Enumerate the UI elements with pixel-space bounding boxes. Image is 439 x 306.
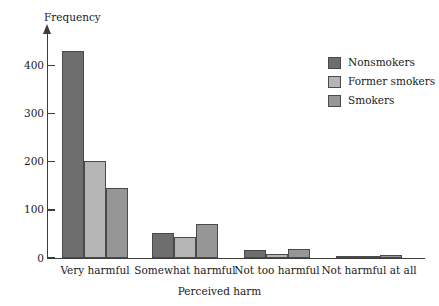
legend-swatch-icon	[328, 95, 341, 107]
bar-group	[62, 32, 128, 258]
bar	[106, 188, 128, 258]
bar	[358, 256, 380, 258]
bar	[152, 233, 174, 258]
legend-label: Nonsmokers	[348, 57, 415, 68]
x-axis-title: Perceived harm	[0, 286, 439, 297]
bar	[62, 51, 84, 258]
bar	[380, 255, 402, 258]
bar-group	[152, 32, 218, 258]
bar-group	[244, 32, 310, 258]
legend-label: Former smokers	[348, 76, 435, 87]
legend-item: Former smokers	[328, 73, 435, 90]
y-axis-tick-label: 200	[14, 156, 44, 167]
legend-label: Smokers	[348, 95, 394, 106]
bar	[288, 249, 310, 258]
bar	[174, 237, 196, 258]
y-axis-tick-label: 0	[14, 253, 44, 264]
y-axis-tick-label: 300	[14, 108, 44, 119]
x-axis-line	[47, 258, 425, 259]
bar	[244, 250, 266, 258]
legend-item: Nonsmokers	[328, 54, 435, 71]
bar	[84, 161, 106, 258]
y-axis-title: Frequency	[44, 12, 101, 23]
bar	[336, 256, 358, 258]
bar	[196, 224, 218, 258]
x-axis-category-label: Not harmful at all	[309, 265, 429, 276]
bar-chart: Frequency 0100200300400 Very harmfulSome…	[0, 0, 439, 306]
legend-item: Smokers	[328, 92, 435, 109]
legend-swatch-icon	[328, 57, 341, 69]
legend-swatch-icon	[328, 76, 341, 88]
y-axis-tick-label: 100	[14, 204, 44, 215]
y-axis-tick-label: 400	[14, 60, 44, 71]
legend: NonsmokersFormer smokersSmokers	[328, 54, 435, 111]
bar	[266, 254, 288, 258]
